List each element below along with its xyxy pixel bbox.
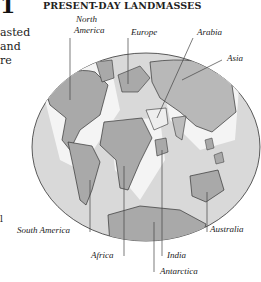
label-antarctica: Antarctica xyxy=(160,266,198,276)
label-asia: Asia xyxy=(227,53,243,63)
world-map-illustration xyxy=(0,0,261,282)
label-australia: Australia xyxy=(210,224,244,234)
label-north-america-line1: North xyxy=(76,14,97,24)
label-south-america: South America xyxy=(17,225,70,235)
label-europe: Europe xyxy=(131,27,157,37)
label-africa: Africa xyxy=(91,250,114,260)
label-india: India xyxy=(167,250,186,260)
label-north-america-line2: America xyxy=(74,25,105,35)
label-arabia: Arabia xyxy=(197,27,222,37)
